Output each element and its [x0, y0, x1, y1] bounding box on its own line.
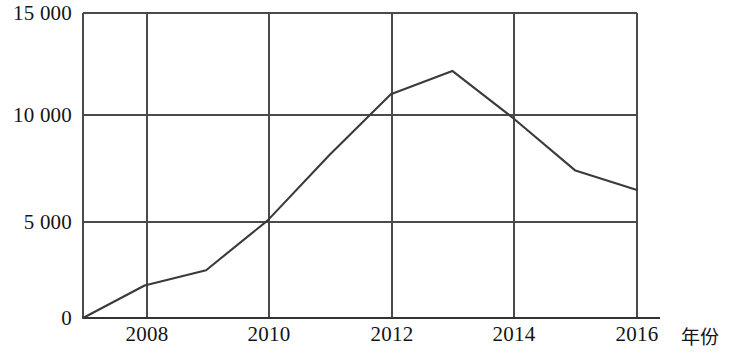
y-tick-label-15000: 15 000 [0, 1, 72, 26]
chart-plot-area [0, 0, 733, 355]
y-tick-label-0: 0 [0, 306, 72, 331]
x-axis-title: 年份 [681, 322, 719, 349]
grid-lines [83, 13, 637, 318]
y-tick-label-5000: 5 000 [0, 210, 72, 235]
data-series-line [83, 71, 637, 318]
x-tick-label-2012: 2012 [352, 322, 432, 347]
line-chart: 15 000 10 000 5 000 0 2008 2010 2012 201… [0, 0, 733, 355]
x-tick-label-2014: 2014 [474, 322, 554, 347]
x-tick-label-2016: 2016 [597, 322, 677, 347]
y-tick-label-10000: 10 000 [0, 103, 72, 128]
x-tick-label-2008: 2008 [107, 322, 187, 347]
x-tick-label-2010: 2010 [229, 322, 309, 347]
